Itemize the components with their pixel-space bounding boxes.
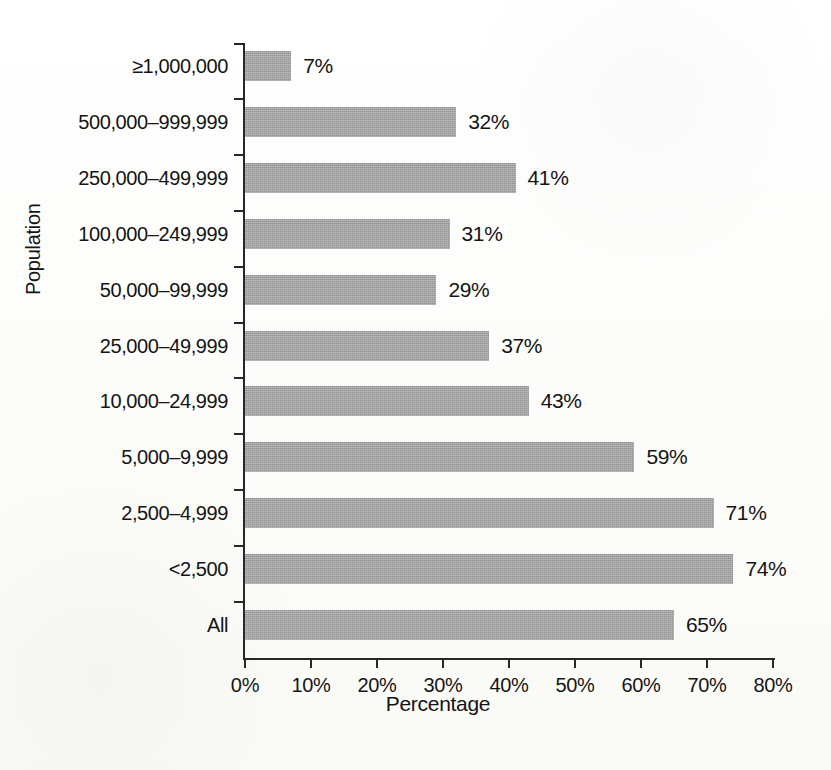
x-tick-7 — [706, 658, 708, 668]
bar-1 — [245, 107, 456, 137]
bar-row: <2,50074% — [245, 546, 773, 602]
bar-8 — [245, 498, 714, 528]
bar-5 — [245, 331, 489, 361]
y-tick-4 — [234, 266, 244, 268]
x-tick-5 — [574, 658, 576, 668]
bar-6 — [245, 386, 529, 416]
bar-value-label-1: 32% — [468, 107, 509, 137]
y-tick-label-5: 25,000–49,999 — [100, 331, 228, 361]
y-tick-label-10: All — [207, 610, 228, 640]
y-tick-label-9: <2,500 — [169, 554, 228, 584]
bar-value-label-7: 59% — [646, 442, 687, 472]
bar-row: 500,000–999,99932% — [245, 99, 773, 155]
bar-0 — [245, 51, 291, 81]
bar-row: 50,000–99,99929% — [245, 267, 773, 323]
y-tick-6 — [234, 377, 244, 379]
x-axis-title: Percentage — [0, 692, 831, 716]
x-tick-4 — [508, 658, 510, 668]
y-tick-7 — [234, 433, 244, 435]
y-tick-label-4: 50,000–99,999 — [100, 275, 228, 305]
y-tick-3 — [234, 210, 244, 212]
bar-row: 25,000–49,99937% — [245, 323, 773, 379]
y-tick-8 — [234, 489, 244, 491]
bar-value-label-2: 41% — [528, 163, 569, 193]
x-tick-3 — [442, 658, 444, 668]
plot-area: 0%10%20%30%40%50%60%70%80% ≥1,000,0007%5… — [245, 43, 773, 658]
y-tick-label-0: ≥1,000,000 — [132, 51, 228, 81]
bar-row: All65% — [245, 602, 773, 658]
y-tick-label-3: 100,000–249,999 — [78, 219, 228, 249]
x-axis-title-text: Percentage — [386, 692, 490, 716]
x-tick-8 — [772, 658, 774, 668]
bar-row: 2,500–4,99971% — [245, 490, 773, 546]
bar-value-label-9: 74% — [745, 554, 786, 584]
bar-value-label-3: 31% — [462, 219, 503, 249]
y-tick-label-7: 5,000–9,999 — [121, 442, 228, 472]
y-tick-label-2: 250,000–499,999 — [78, 163, 228, 193]
bar-7 — [245, 442, 634, 472]
y-tick-9 — [234, 545, 244, 547]
bar-value-label-6: 43% — [541, 386, 582, 416]
x-tick-6 — [640, 658, 642, 668]
bar-value-label-0: 7% — [303, 51, 333, 81]
y-tick-label-8: 2,500–4,999 — [121, 498, 228, 528]
bar-row: 10,000–24,99943% — [245, 378, 773, 434]
bar-value-label-8: 71% — [726, 498, 767, 528]
x-tick-0 — [244, 658, 246, 668]
y-tick-1 — [234, 98, 244, 100]
y-tick-10 — [234, 601, 244, 603]
x-tick-1 — [310, 658, 312, 668]
y-tick-5 — [234, 322, 244, 324]
bar-row: 250,000–499,99941% — [245, 155, 773, 211]
bar-4 — [245, 275, 436, 305]
chart-figure: Population 0%10%20%30%40%50%60%70%80% ≥1… — [0, 0, 831, 770]
x-tick-2 — [376, 658, 378, 668]
y-axis-title: Population — [22, 203, 45, 295]
bar-row: 100,000–249,99931% — [245, 211, 773, 267]
bar-2 — [245, 163, 516, 193]
bar-row: 5,000–9,99959% — [245, 434, 773, 490]
bar-value-label-4: 29% — [448, 275, 489, 305]
bar-value-label-5: 37% — [501, 331, 542, 361]
y-tick-2 — [234, 154, 244, 156]
bar-9 — [245, 554, 733, 584]
y-tick-label-1: 500,000–999,999 — [78, 107, 228, 137]
bar-value-label-10: 65% — [686, 610, 727, 640]
bar-10 — [245, 610, 674, 640]
bar-row: ≥1,000,0007% — [245, 43, 773, 99]
y-tick-label-6: 10,000–24,999 — [100, 386, 228, 416]
y-tick-top — [234, 43, 244, 45]
bar-3 — [245, 219, 450, 249]
